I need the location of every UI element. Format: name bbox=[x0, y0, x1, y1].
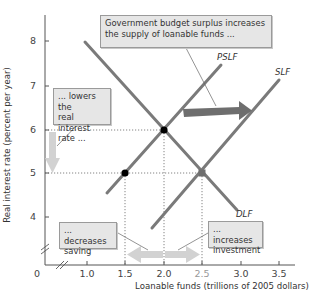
lowers-rate-line3: rate ... bbox=[58, 133, 106, 144]
saving-point bbox=[121, 169, 128, 176]
x-tick-2-0: 2.0 bbox=[152, 268, 176, 279]
x-tick-1-5: 1.5 bbox=[113, 268, 137, 279]
dlf-curve bbox=[85, 42, 237, 210]
decreases-saving-callout: ... decreases saving bbox=[59, 222, 117, 249]
surplus-callout-line2: the supply of loanable funds ... bbox=[105, 29, 267, 40]
loanable-funds-chart: Real interest rate (percent per year) Lo… bbox=[0, 0, 312, 304]
x-tick-3-0: 3.0 bbox=[229, 268, 253, 279]
new-equilibrium-point bbox=[199, 170, 206, 177]
y-tick-8: 8 bbox=[24, 35, 36, 46]
callout-leaders bbox=[57, 48, 216, 250]
y-tick-6: 6 bbox=[24, 124, 36, 135]
surplus-callout-line1: Government budget surplus increases bbox=[105, 18, 267, 29]
x-tick-0: 0 bbox=[25, 268, 49, 279]
slf-curve bbox=[152, 80, 279, 228]
decreases-saving-line2: saving bbox=[64, 246, 112, 257]
x-tick-3-5: 3.5 bbox=[267, 268, 291, 279]
y-ticks bbox=[45, 41, 49, 217]
x-tick-1-0: 1.0 bbox=[75, 268, 99, 279]
lowers-rate-callout: ... lowers the real interest rate ... bbox=[53, 88, 111, 125]
increases-investment-line1: ... increases bbox=[213, 224, 258, 245]
y-tick-5: 5 bbox=[24, 167, 36, 178]
lowers-rate-line1: ... lowers the bbox=[58, 91, 106, 112]
supply-shift-arrow-icon bbox=[183, 101, 252, 120]
initial-equilibrium-point bbox=[160, 126, 167, 133]
x-ticks bbox=[87, 261, 279, 265]
pslf-label: PSLF bbox=[217, 52, 237, 62]
x-tick-2-5: 2.5 bbox=[190, 268, 214, 279]
decreases-saving-line1: ... decreases bbox=[64, 225, 112, 246]
x-axis-label: Loanable funds (trillions of 2005 dollar… bbox=[132, 281, 312, 291]
increases-investment-callout: ... increases investment bbox=[208, 221, 263, 248]
slf-label: SLF bbox=[275, 67, 290, 77]
dlf-label: DLF bbox=[236, 209, 252, 219]
y-axis-label: Real interest rate (percent per year) bbox=[2, 50, 12, 240]
y-tick-4: 4 bbox=[24, 211, 36, 222]
y-tick-7: 7 bbox=[24, 80, 36, 91]
investment-increase-arrow-icon bbox=[165, 246, 200, 263]
lowers-rate-line2: real interest bbox=[58, 112, 106, 133]
increases-investment-line2: investment bbox=[213, 245, 258, 256]
surplus-callout: Government budget surplus increases the … bbox=[100, 15, 272, 48]
